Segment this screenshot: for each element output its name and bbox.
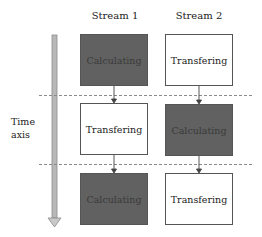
arrowhead-s1-2-3 [112, 169, 117, 173]
connector-arrows [0, 0, 262, 237]
arrowhead-s2-2-3 [197, 169, 202, 173]
arrowhead-s2-1-2 [197, 100, 202, 104]
arrowhead-s1-1-2 [112, 99, 117, 103]
